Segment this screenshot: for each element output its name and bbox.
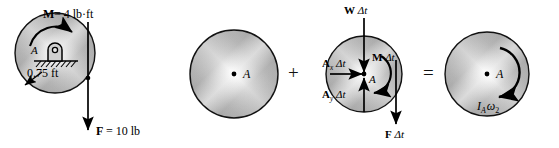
force-value-label: = 10 lb xyxy=(106,125,140,137)
moment-impulse-label: M Δt xyxy=(372,52,395,63)
point-a-label-impulse: A xyxy=(369,74,376,85)
impulse-momentum-figure xyxy=(0,0,559,148)
center-point xyxy=(362,72,367,77)
moment-impulse-dt: Δt xyxy=(385,51,395,63)
reaction-x-impulse-label: Ax Δt xyxy=(322,58,345,72)
weight-impulse-label: W Δt xyxy=(344,5,367,16)
center-point xyxy=(232,72,237,77)
reaction-y-dt: Δt xyxy=(336,88,346,100)
angular-momentum-label: IA ω2 xyxy=(477,100,499,115)
omega-subscript: 2 xyxy=(495,106,499,115)
force-impulse-label: F Δt xyxy=(385,129,404,140)
point-a-label-fbd: A xyxy=(31,45,38,56)
force-line-dot xyxy=(86,76,91,81)
weight-dt: Δt xyxy=(358,4,368,16)
plus-operator: + xyxy=(288,62,299,84)
pin-hole xyxy=(52,47,57,52)
reaction-x-dt: Δt xyxy=(336,57,346,69)
point-a-label-initial: A xyxy=(243,68,250,80)
moment-value-label: = 4 lb·ft xyxy=(54,8,93,20)
initial-momentum-diagram xyxy=(190,30,278,118)
force-impulse-dt: Δt xyxy=(394,128,404,140)
radius-label: 0.75 ft xyxy=(27,67,58,79)
reaction-y-symbol: A xyxy=(322,88,330,100)
weight-symbol: W xyxy=(344,4,355,16)
moment-symbol-label: M xyxy=(43,8,54,20)
force-symbol-label: F xyxy=(96,125,103,137)
point-a-label-final: A xyxy=(496,68,503,80)
moment-impulse-symbol: M xyxy=(372,51,382,63)
equals-operator: = xyxy=(423,62,434,84)
force-impulse-symbol: F xyxy=(385,128,392,140)
reaction-x-symbol: A xyxy=(322,57,330,69)
center-point xyxy=(485,72,490,77)
reaction-y-impulse-label: Ay Δt xyxy=(322,89,345,103)
